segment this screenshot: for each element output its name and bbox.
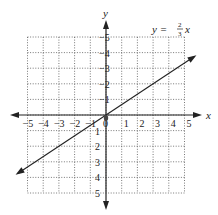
line-arrow-lower-left-icon xyxy=(16,167,25,174)
line-arrow-upper-right-icon xyxy=(187,55,196,62)
y-tick-label: 1 xyxy=(95,126,100,137)
x-tick-label: 5 xyxy=(187,118,192,129)
svg-text:y =: y = xyxy=(151,23,167,35)
x-tick-label: −3 xyxy=(54,118,65,129)
y-tick-label: 2 xyxy=(95,141,100,152)
y-tick-label: −5 xyxy=(99,32,110,43)
x-axis-arrow-left-icon xyxy=(10,112,19,118)
x-tick-label: 1 xyxy=(124,118,129,129)
y-tick-label: −2 xyxy=(99,79,110,90)
x-axis-label: x xyxy=(205,109,211,121)
origin-point xyxy=(104,115,108,121)
y-tick-label: −3 xyxy=(99,63,110,74)
x-tick-label: 3 xyxy=(155,118,160,129)
x-tick-label: 4 xyxy=(171,118,176,129)
y-axis-arrow-down-icon xyxy=(103,201,109,210)
equation-label: y = 2 3 x xyxy=(151,21,190,38)
y-axis-label: y xyxy=(102,7,108,19)
y-tick-label: 3 xyxy=(95,157,100,168)
y-axis-arrow-up-icon xyxy=(103,20,109,29)
equation-suffix: x xyxy=(184,23,190,35)
y-tick-label: 4 xyxy=(95,172,100,183)
x-tick-label: 2 xyxy=(139,118,144,129)
x-tick-label: −5 xyxy=(23,118,34,129)
coordinate-plane-chart: x y −5−4−3−2−101234554321−1−2−3−4−5 y = … xyxy=(0,0,218,215)
fraction-denominator: 3 xyxy=(178,30,182,38)
y-tick-label: −4 xyxy=(99,48,110,59)
x-axis-arrow-right-icon xyxy=(193,112,202,118)
y-tick-label: −1 xyxy=(99,94,110,105)
fraction-numerator: 2 xyxy=(178,21,182,29)
x-tick-label: −2 xyxy=(70,118,81,129)
y-tick-label: 5 xyxy=(95,188,100,199)
x-tick-label: −4 xyxy=(38,118,49,129)
